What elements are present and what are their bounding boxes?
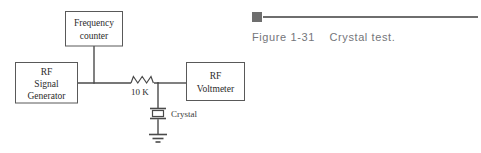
block-rf-voltmeter: RF Voltmeter [187,63,245,101]
crystal-label: Crystal [171,109,197,119]
figure-caption-block: Figure 1-31 Crystal test. [252,12,478,43]
rf-signal-generator-label-line2: Signal [34,79,59,89]
crystal-symbol [150,109,166,119]
rule-square-marker [252,12,262,22]
figure-caption-text: Figure 1-31 Crystal test. [252,31,478,43]
rf-signal-generator-label-line3: Generator [28,91,67,101]
caption-rule [252,12,478,22]
rule-horizontal-line [263,16,478,18]
resistor-symbol [131,75,154,84]
block-rf-signal-generator: RF Signal Generator [16,63,78,104]
circuit-schematic: Frequency counter RF Signal Generator RF… [0,0,260,153]
rf-signal-generator-label-line1: RF [41,67,53,77]
resistor-value-label: 10 K [131,87,149,97]
frequency-counter-label-line1: Frequency [74,18,114,28]
ground-symbol [149,135,167,143]
rf-voltmeter-label-line2: Voltmeter [197,84,235,94]
block-frequency-counter: Frequency counter [66,12,123,47]
rf-voltmeter-label-line1: RF [210,71,222,81]
frequency-counter-label-line2: counter [80,31,109,41]
